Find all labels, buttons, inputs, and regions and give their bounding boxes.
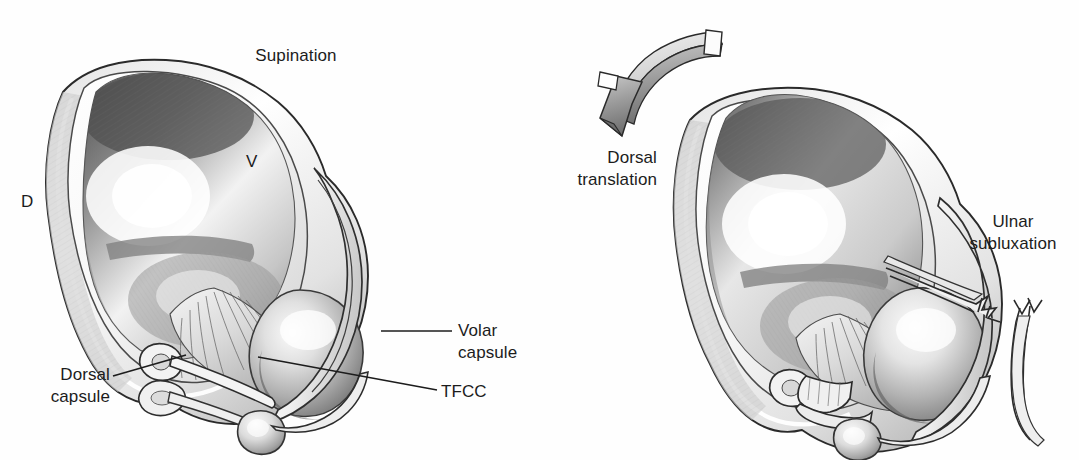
label-volar-capsule: Volar capsule [458,320,568,364]
label-tfcc: TFCC [441,381,521,403]
figure-root: Supination D V Volar capsule TFCC Dorsal… [0,0,1079,460]
label-dorsal-capsule: Dorsal capsule [14,364,110,408]
right-torn-capsule-strand-fill [1012,316,1044,446]
label-orientation-volar: V [246,151,268,173]
label-dorsal-translation: Dorsal translation [553,147,657,191]
left-ulnar-head-highlight [280,310,336,350]
label-orientation-dorsal: D [21,191,43,213]
label-supination: Supination [236,45,356,67]
illustration-artwork [0,0,1079,460]
right-ulnar-head-highlight [896,308,956,352]
label-ulnar-subluxation: Ulnar subluxation [952,211,1074,255]
